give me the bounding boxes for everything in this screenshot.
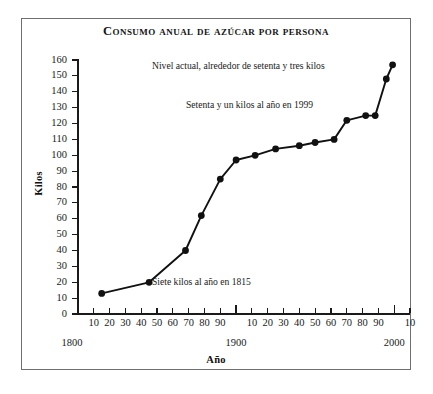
data-point <box>389 61 396 68</box>
data-point <box>296 142 303 149</box>
data-point <box>146 279 153 286</box>
data-point <box>383 76 390 83</box>
data-point <box>217 176 224 183</box>
data-point <box>98 290 105 297</box>
plot-area: Kilos Año 010203040506070809010011012013… <box>0 0 433 394</box>
data-point <box>312 139 319 146</box>
data-point <box>252 152 259 159</box>
data-point <box>182 247 189 254</box>
data-point <box>343 117 350 124</box>
data-point <box>331 136 338 143</box>
series-line <box>102 65 393 294</box>
data-point <box>233 157 240 164</box>
data-point <box>198 212 205 219</box>
data-point <box>272 146 279 153</box>
data-series-line <box>0 0 433 394</box>
data-point <box>372 112 379 119</box>
data-point <box>362 112 369 119</box>
